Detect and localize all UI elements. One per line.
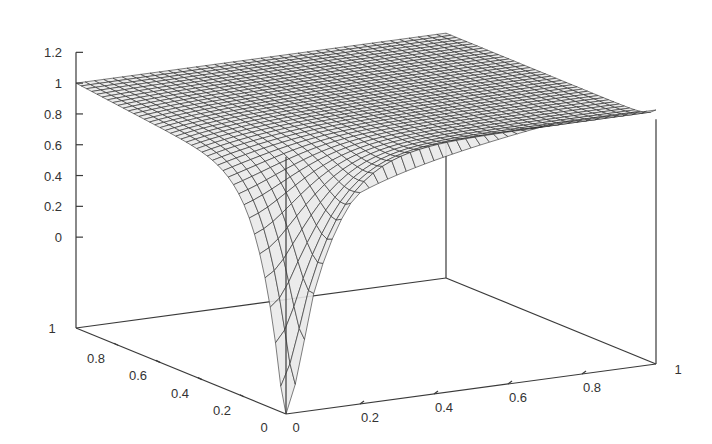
z-tick-label: 0.2	[44, 199, 62, 214]
z-tick-label: 0.6	[44, 138, 62, 153]
y-tick-label: 1	[48, 321, 55, 336]
y-tick-label: 0.6	[129, 368, 147, 383]
x-tick-label: 0.8	[583, 380, 601, 395]
x-tick-label: 0.6	[509, 390, 527, 405]
x-tick-label: 0.4	[435, 400, 453, 415]
y-tick-label: 0.4	[171, 386, 189, 401]
box-edge	[76, 278, 446, 328]
z-tick-label: 0.8	[44, 107, 62, 122]
y-tick-label: 0.8	[87, 351, 105, 366]
z-tick-label: 0.4	[44, 169, 62, 184]
x-tick-label: 0	[292, 420, 299, 435]
box-edge	[446, 278, 656, 364]
y-tick-label: 0	[260, 420, 267, 435]
y-axis-line	[76, 328, 286, 414]
surface-plot: 00.20.40.60.811.200.20.40.60.8100.20.40.…	[0, 0, 712, 444]
x-tick-label: 1	[674, 362, 681, 377]
y-tick-label: 0.2	[213, 403, 231, 418]
z-tick-label: 1	[55, 76, 62, 91]
x-tick-label: 0.2	[361, 410, 379, 425]
z-tick-label: 0	[55, 230, 62, 245]
surface-mesh	[76, 33, 656, 414]
z-tick-label: 1.2	[44, 45, 62, 60]
